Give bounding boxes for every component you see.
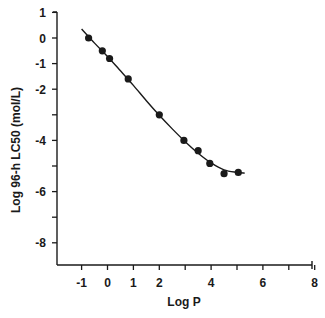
y-tick-label: -1 — [35, 57, 46, 71]
x-tick-label: 1 — [130, 276, 137, 290]
data-point — [235, 169, 242, 176]
data-point — [125, 75, 132, 82]
y-tick-label: -2 — [35, 83, 46, 97]
y-tick-label: 1 — [39, 6, 46, 20]
y-tick-label: -8 — [35, 236, 46, 250]
plot-area — [82, 29, 245, 177]
data-point — [195, 147, 202, 154]
data-point — [99, 47, 106, 54]
y-tick-label: 0 — [39, 32, 46, 46]
data-point — [180, 137, 187, 144]
y-ticks: 10-1-2-4-6-8 — [35, 6, 57, 250]
data-point — [220, 170, 227, 177]
x-axis-title: Log P — [167, 295, 200, 309]
y-tick-label: -4 — [35, 134, 46, 148]
y-axis-title: Log 96-h LC50 (mol/L) — [9, 87, 23, 213]
data-point — [106, 55, 113, 62]
data-point — [156, 111, 163, 118]
x-tick-label: -1 — [76, 276, 87, 290]
x-tick-label: 4 — [208, 276, 215, 290]
data-point — [85, 34, 92, 41]
x-tick-label: 0 — [104, 276, 111, 290]
x-ticks: -1012468 — [76, 265, 318, 290]
y-tick-label: -6 — [35, 185, 46, 199]
fitted-curve — [82, 29, 245, 173]
x-tick-label: 2 — [156, 276, 163, 290]
x-tick-label: 6 — [260, 276, 267, 290]
chart: -1012468 10-1-2-4-6-8 Log P Log 96-h LC5… — [0, 0, 325, 318]
x-tick-label: 8 — [311, 276, 318, 290]
data-point — [206, 160, 213, 167]
